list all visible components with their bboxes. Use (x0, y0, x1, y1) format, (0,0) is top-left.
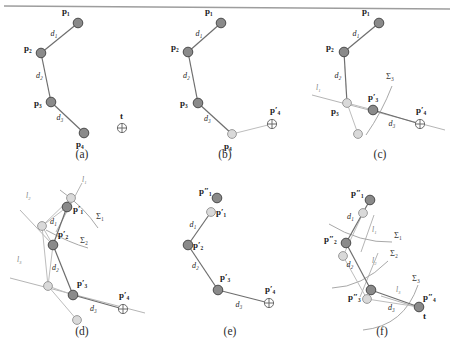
panel-d: l₁l₂l₃Σ₁Σ₂d₁d₂d₃p′₁p′₂p′₃p′₄ (10, 175, 145, 324)
joint-p2g[interactable] (339, 252, 348, 261)
joint-p1g[interactable] (359, 209, 368, 218)
joint-label-p3: p₃ (331, 106, 339, 116)
panel-caption-e: (e) (210, 325, 250, 337)
panel-caption-b: (b) (205, 148, 245, 160)
distance-label-d₁: d₁ (50, 217, 57, 226)
joint-label-p1: p₁ (362, 6, 370, 16)
link-p1-p2 (188, 23, 221, 52)
distance-label-d₂: d₂ (335, 71, 342, 80)
line-label-l2: l₂ (372, 256, 377, 265)
joint-label-p1p: p′₁ (216, 207, 227, 217)
target-label: t (120, 111, 123, 121)
distance-label-d₃: d₃ (236, 300, 243, 309)
distance-label-d₁: d₁ (347, 212, 354, 221)
joint-p2[interactable] (183, 47, 193, 57)
line-label-l1: l₁ (372, 225, 377, 234)
constraint-line-l2 (20, 210, 52, 244)
joint-p2p[interactable] (48, 240, 58, 250)
joint-p3p[interactable] (68, 290, 78, 300)
link-p1-p2 (344, 23, 379, 52)
link-p1-p2 (41, 23, 78, 53)
ik-figure-svg: d₁d₂d₃p₁p₂p₃p₄td₁d₂d₃p₁p₂p₃p₄p′₄l₁Σ₃d₁d₂… (0, 0, 454, 351)
joint-p2pp[interactable] (341, 238, 351, 248)
panel-c: l₁Σ₃d₁d₂d₃p₁p₂p₃p′₃p′₄ (312, 6, 445, 138)
joint-p1pp[interactable] (365, 195, 375, 205)
joint-p4p[interactable] (118, 304, 127, 313)
joint-label-p3p: p′₃ (220, 272, 231, 282)
arc-label-S3: Σ₃ (386, 71, 394, 81)
arc-label-S2: Σ₂ (80, 235, 88, 245)
joint-p1g[interactable] (67, 194, 76, 203)
joint-p3[interactable] (46, 97, 56, 107)
joint-label-p4p: p′₄ (119, 290, 130, 300)
target-marker[interactable] (117, 123, 126, 132)
panel-caption-a: (a) (62, 148, 102, 160)
joint-p3p[interactable] (213, 285, 223, 295)
constraint-arc-S2 (332, 261, 388, 288)
link-p3p-p4p (218, 290, 269, 303)
link-p2-p3 (344, 52, 347, 103)
constraint-arc-S1 (329, 224, 392, 242)
joint-label-p3p: p′₃ (368, 92, 379, 102)
line-label-l2: l₂ (26, 191, 31, 200)
joint-p1p[interactable] (207, 208, 216, 217)
panel-caption-c: (c) (360, 148, 400, 160)
distance-label-d₂: d₂ (192, 261, 199, 270)
joint-p1[interactable] (216, 18, 226, 28)
joint-p3pp[interactable] (366, 285, 376, 295)
joint-label-p1pp: p″₁ (351, 188, 364, 198)
joint-label-p4p: p′₄ (416, 105, 427, 115)
arc-label-S1: Σ₁ (394, 230, 402, 240)
joint-label-p3pp: p″₃ (348, 292, 361, 302)
joint-p4[interactable] (79, 128, 89, 138)
joint-label-p1pp: p″₁ (199, 186, 212, 196)
line-label-l1: l₁ (316, 83, 321, 92)
distance-label-d₂: d₂ (36, 71, 43, 80)
distance-label-d₁: d₁ (190, 220, 197, 229)
joint-p1p[interactable] (62, 202, 72, 212)
distance-label-d₁: d₁ (353, 29, 360, 38)
joint-label-p3: p₃ (180, 98, 188, 108)
joint-p4[interactable] (228, 130, 237, 139)
distance-label-d₂: d₂ (347, 260, 354, 269)
joint-label-p2p: p′₂ (193, 240, 204, 250)
distance-label-d₃: d₃ (90, 304, 97, 313)
joint-label-p1: p₁ (62, 6, 70, 16)
distance-label-d₃: d₃ (204, 114, 211, 123)
panel-a: d₁d₂d₃p₁p₂p₃p₄t (24, 6, 127, 149)
joint-p3g[interactable] (363, 295, 372, 304)
panel-caption-d: (d) (62, 325, 102, 337)
joint-p3[interactable] (343, 99, 352, 108)
arc-label-S2: Σ₂ (390, 248, 398, 258)
line-label-l1: l₁ (82, 175, 87, 184)
link-p3p-p4p (73, 295, 123, 309)
joint-p2g[interactable] (38, 222, 47, 231)
joint-p1[interactable] (374, 18, 384, 28)
distance-label-d₃: d₃ (57, 113, 64, 122)
joint-p2[interactable] (339, 47, 349, 57)
link-p3p-p4p (373, 110, 420, 124)
joint-label-p3p: p′₃ (77, 278, 88, 288)
joint-p2[interactable] (36, 48, 46, 58)
joint-p1pp[interactable] (212, 193, 222, 203)
ghost-link (232, 124, 272, 134)
joint-p4p[interactable] (267, 119, 276, 128)
joint-p4p[interactable] (415, 119, 424, 128)
joint-p4g2[interactable] (73, 316, 82, 325)
joint-p3g[interactable] (44, 282, 53, 291)
joint-p1[interactable] (73, 18, 83, 28)
distance-label-d₂: d₂ (183, 71, 190, 80)
joint-p4p[interactable] (264, 298, 273, 307)
panel-caption-f: (f) (362, 325, 402, 337)
joint-label-p2pp: p″₂ (324, 234, 337, 244)
ghost-link (347, 103, 358, 134)
joint-p4g[interactable] (354, 130, 363, 139)
joint-p3p[interactable] (368, 105, 378, 115)
line-label-l3: l₃ (17, 255, 22, 264)
joint-label-p4p: p′₄ (265, 284, 276, 294)
joint-p2p[interactable] (183, 240, 193, 250)
joint-p3[interactable] (193, 98, 203, 108)
joint-label-p2: p₂ (326, 42, 334, 52)
top-horizontal-rule (4, 6, 450, 9)
joint-label-p1: p₁ (205, 6, 213, 16)
